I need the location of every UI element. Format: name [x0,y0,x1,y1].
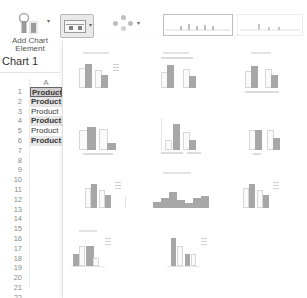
column-a-cells: ProductProductProductProductProductProdu… [30,87,62,298]
row-header[interactable]: 22 [0,293,28,298]
chart-style-thumbnail-icon [164,15,232,35]
row-header[interactable]: 16 [0,234,28,244]
row-header[interactable]: 20 [0,273,28,283]
bar-shape [107,143,116,150]
row-header[interactable]: 3 [0,107,28,117]
cell-a17[interactable] [30,244,62,254]
add-chart-element-label-2: Element [2,45,58,53]
chart-style-1[interactable] [163,14,233,36]
row-header[interactable]: 12 [0,195,28,205]
bar-shape [273,138,280,150]
legend-shape [113,64,119,73]
label-shape [83,153,113,155]
quick-layout-option[interactable] [69,226,139,278]
cell-a9[interactable] [30,165,62,175]
row-header[interactable]: 8 [0,156,28,166]
chevron-down-icon: ▾ [47,17,50,24]
quick-layout-option[interactable] [229,48,299,100]
chart-style-thumbnail-icon [238,15,302,35]
cell-a18[interactable] [30,254,62,264]
cell-a19[interactable] [30,263,62,273]
bar-shape [251,66,258,88]
change-colors-button[interactable]: ▾ [110,14,142,34]
cell-a7[interactable] [30,146,62,156]
bar-shape [185,203,193,208]
bar-shape [177,246,183,266]
row-header[interactable]: 4 [0,116,28,126]
bar-shape [167,65,174,88]
cell-a4[interactable]: Product [30,116,62,126]
bar-shape [161,198,169,208]
quick-layout-option[interactable] [69,48,139,100]
cell-a14[interactable] [30,214,62,224]
row-header[interactable]: 9 [0,165,28,175]
cell-a22[interactable] [30,293,62,298]
quick-layout-option[interactable] [229,110,299,162]
quick-layout-gallery [62,40,307,298]
cell-a3[interactable]: Product [30,107,62,117]
title-shape [163,52,189,54]
cell-a10[interactable] [30,175,62,185]
row-header[interactable]: 21 [0,283,28,293]
title-shape [83,52,109,54]
axis-line [161,118,162,150]
row-header[interactable]: 1 [0,87,28,97]
bar-shape [85,64,92,88]
bar-shape [201,196,209,208]
axis-line [125,196,126,208]
quick-layout-button[interactable]: ▾ [60,14,94,38]
row-header[interactable]: 18 [0,254,28,264]
row-header[interactable]: 17 [0,244,28,254]
cell-a16[interactable] [30,234,62,244]
row-header[interactable]: 2 [0,97,28,107]
row-header[interactable]: 15 [0,224,28,234]
quick-layout-option[interactable] [149,226,219,278]
cell-a1[interactable]: Product [30,87,62,97]
chevron-down-icon: ▾ [137,19,140,26]
bar-shape [173,124,180,150]
row-header[interactable]: 11 [0,185,28,195]
bar-shape [255,130,262,150]
row-header[interactable]: 14 [0,214,28,224]
bar-shape [189,140,196,150]
row-header[interactable]: 5 [0,126,28,136]
row-header[interactable]: 6 [0,136,28,146]
quick-layout-option[interactable] [149,48,219,100]
chart-style-2[interactable] [237,14,303,36]
cell-a21[interactable] [30,283,62,293]
label-shape [253,153,261,155]
quick-layout-option[interactable] [149,168,219,220]
cell-a20[interactable] [30,273,62,283]
name-box[interactable]: Chart 1 [2,55,38,67]
cell-a6[interactable]: Product [30,136,62,146]
row-headers: 12345678910111213141516171819202122 [0,87,28,298]
quick-layout-option[interactable] [229,168,299,220]
change-colors-icon [110,14,136,34]
title-shape [251,52,271,54]
legend-shape [201,238,207,247]
column-header-a[interactable]: A [30,78,62,87]
bar-shape [153,202,161,208]
bar-shape [249,184,255,208]
cell-a13[interactable] [30,205,62,215]
bar-shape [79,246,85,266]
bar-shape [87,127,96,150]
bar-shape [93,258,99,266]
quick-layout-option[interactable] [69,168,139,220]
cell-a12[interactable] [30,195,62,205]
row-header[interactable]: 7 [0,146,28,156]
row-header[interactable]: 13 [0,205,28,215]
quick-layout-option[interactable] [149,110,219,162]
label-shape [161,57,193,59]
cell-a2[interactable]: Product [30,97,62,107]
cell-a15[interactable] [30,224,62,234]
cell-a11[interactable] [30,185,62,195]
cell-a8[interactable] [30,156,62,166]
row-header[interactable]: 19 [0,263,28,273]
add-chart-element-button[interactable]: ▾ Add Chart Element [2,8,58,48]
legend-shape [105,238,111,247]
row-header[interactable]: 10 [0,175,28,185]
cell-a5[interactable]: Product [30,126,62,136]
quick-layout-option[interactable] [69,110,139,162]
label-shape [245,91,279,93]
